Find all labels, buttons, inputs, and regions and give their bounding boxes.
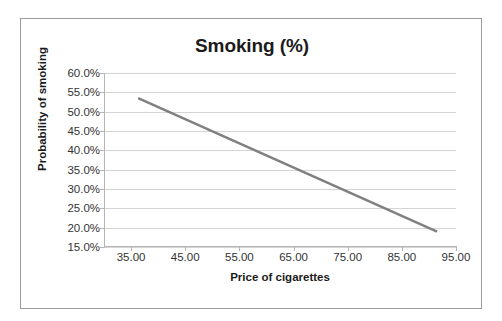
y-axis-tick-label: 60.0% [67,67,100,79]
x-axis-tick-label: 65.00 [279,251,308,263]
x-axis-tick-label: 85.00 [387,251,416,263]
y-axis-tick-label: 45.0% [67,125,100,137]
y-axis-tick-label: 55.0% [67,86,100,98]
x-axis-tick-label: 55.00 [225,251,254,263]
chart-title: Smoking (%) [21,35,483,57]
x-axis-title: Price of cigarettes [104,271,456,283]
y-axis-tick-label: 40.0% [67,144,100,156]
y-axis-tick-label: 35.0% [67,164,100,176]
chart-frame: Smoking (%) Probability of smoking 15.0%… [20,18,482,309]
y-axis-tick-label: 50.0% [67,106,100,118]
y-axis-tick-label: 25.0% [67,202,100,214]
series-line-smoking [104,73,456,247]
y-axis-tick-label: 30.0% [67,183,100,195]
x-axis-tick-label: 95.00 [442,251,471,263]
x-axis-tick-labels: 35.0045.0055.0065.0075.0085.0095.00 [104,251,456,269]
plot-area [104,73,456,247]
y-axis-tick-label: 15.0% [67,241,100,253]
y-axis-tick-labels: 15.0%20.0%25.0%30.0%35.0%40.0%45.0%50.0%… [41,73,100,247]
x-axis-tick-label: 75.00 [333,251,362,263]
x-axis-tick-label: 45.00 [171,251,200,263]
x-axis-tick-label: 35.00 [117,251,146,263]
y-axis-tick-label: 20.0% [67,222,100,234]
y-axis-tick [100,247,105,248]
gridline-horizontal [104,247,456,248]
